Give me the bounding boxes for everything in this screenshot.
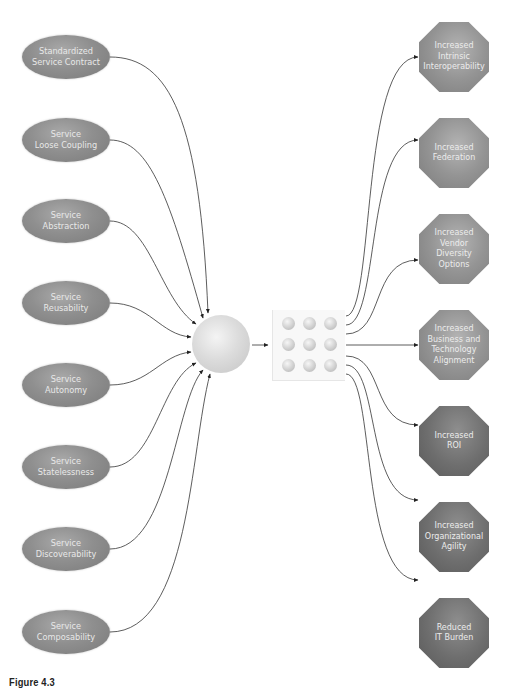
principle-label-line2: Autonomy bbox=[45, 385, 87, 396]
principle-label-line1: Service bbox=[51, 129, 81, 140]
principle-label-line2: Reusability bbox=[44, 303, 89, 314]
principle-standardized-service-contract: Standardized Service Contract bbox=[22, 35, 110, 79]
grid-ball bbox=[324, 338, 337, 351]
grid-ball bbox=[282, 338, 295, 351]
goal-label-line: Alignment bbox=[434, 356, 475, 367]
goal-label-line: Reduced bbox=[437, 623, 472, 634]
goal-label-line: Federation bbox=[433, 153, 476, 164]
principle-label-line1: Service bbox=[51, 210, 81, 221]
hub-sphere bbox=[192, 315, 250, 373]
grid-ball bbox=[324, 317, 337, 330]
goal-increased-vendor-diversity-options: Increased Vendor Diversity Options bbox=[419, 214, 489, 284]
goal-label-line: Increased bbox=[435, 431, 474, 442]
goal-label-line: Increased bbox=[435, 41, 474, 52]
principle-label-line2: Abstraction bbox=[43, 221, 90, 232]
goal-increased-roi: Increased ROI bbox=[419, 406, 489, 476]
grid-ball bbox=[303, 338, 316, 351]
grid-ball bbox=[282, 359, 295, 372]
goal-label-line: Increased bbox=[435, 521, 474, 532]
goal-label-line: Intrinsic bbox=[438, 52, 470, 63]
principle-service-statelessness: Service Statelessness bbox=[22, 445, 110, 489]
goal-label-line: Diversity bbox=[436, 249, 472, 260]
goal-label-line: Agility bbox=[441, 542, 466, 553]
principle-label-line1: Service bbox=[51, 456, 81, 467]
principle-label-line2: Statelessness bbox=[38, 467, 94, 478]
principle-service-discoverability: Service Discoverability bbox=[22, 527, 110, 571]
goal-label-line: Options bbox=[439, 260, 470, 271]
goal-label-line: IT Burden bbox=[435, 633, 474, 644]
goal-reduced-it-burden: Reduced IT Burden bbox=[419, 598, 489, 668]
principle-label-line1: Service bbox=[51, 621, 81, 632]
goal-label-line: ROI bbox=[447, 441, 461, 452]
goal-label-line: Vendor bbox=[440, 239, 468, 250]
goal-label-line: Interoperability bbox=[423, 62, 484, 73]
principle-label-line2: Service Contract bbox=[32, 57, 100, 68]
figure-caption: Figure 4.3 bbox=[9, 676, 55, 688]
grid-ball bbox=[282, 317, 295, 330]
goal-label-line: Increased bbox=[435, 228, 474, 239]
principle-label-line1: Standardized bbox=[39, 46, 93, 57]
goal-label-line: Technology bbox=[432, 345, 477, 356]
goal-label-line: Increased bbox=[435, 324, 474, 335]
goal-increased-intrinsic-interoperability: Increased Intrinsic Interoperability bbox=[419, 22, 489, 92]
principle-label-line2: Discoverability bbox=[36, 549, 97, 560]
principle-label-line1: Service bbox=[51, 292, 81, 303]
grid-ball bbox=[324, 359, 337, 372]
goal-label-line: Organizational bbox=[425, 532, 483, 543]
principle-label-line1: Service bbox=[51, 538, 81, 549]
grid-ball bbox=[303, 317, 316, 330]
principle-service-autonomy: Service Autonomy bbox=[22, 363, 110, 407]
goal-increased-organizational-agility: Increased Organizational Agility bbox=[419, 502, 489, 572]
principle-service-abstraction: Service Abstraction bbox=[22, 199, 110, 243]
goal-increased-federation: Increased Federation bbox=[419, 118, 489, 188]
principle-label-line2: Composability bbox=[37, 632, 95, 643]
goal-label-line: Business and bbox=[428, 335, 481, 346]
goal-increased-business-technology-alignment: Increased Business and Technology Alignm… bbox=[419, 310, 489, 380]
goal-label-line: Increased bbox=[435, 143, 474, 154]
principle-label-line1: Service bbox=[51, 374, 81, 385]
grid-ball bbox=[303, 359, 316, 372]
principle-service-composability: Service Composability bbox=[22, 610, 110, 654]
principle-label-line2: Loose Coupling bbox=[35, 140, 97, 151]
service-grid bbox=[272, 310, 345, 381]
principle-service-reusability: Service Reusability bbox=[22, 281, 110, 325]
principle-service-loose-coupling: Service Loose Coupling bbox=[22, 118, 110, 162]
